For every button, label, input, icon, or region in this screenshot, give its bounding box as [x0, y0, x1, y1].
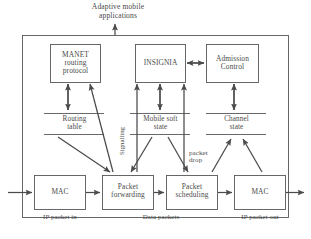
mac-out-box	[235, 176, 286, 210]
insignia-box	[136, 45, 186, 83]
system-boundary	[23, 36, 289, 218]
arrow-scheduling-to-channel-state	[212, 139, 231, 172]
mac-in-box	[35, 176, 86, 210]
arrow-forwarding-to-manet	[90, 84, 113, 172]
arrow-routing-table-to-forwarding	[58, 137, 110, 172]
packet-scheduling-box	[167, 176, 218, 210]
channel-state-rules	[206, 114, 266, 135]
arrow-mac-out-to-channel-state	[243, 139, 262, 172]
arrow-soft-state-to-forwarding	[131, 137, 152, 172]
mobile-soft-state-rules	[130, 114, 190, 135]
packet-forwarding-box	[103, 176, 154, 210]
manet-box	[51, 45, 101, 83]
arrow-soft-state-to-scheduling	[168, 137, 188, 172]
routing-table-rules	[44, 114, 104, 135]
admission-control-box	[207, 45, 259, 83]
diagram-canvas: Adaptive mobile applications MANET routi…	[0, 0, 311, 239]
diagram-vector-layer	[0, 0, 311, 239]
